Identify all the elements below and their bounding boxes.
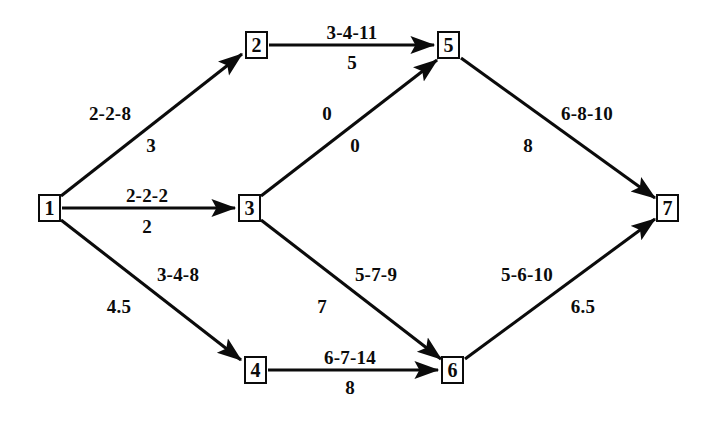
edge-line-1-4 <box>61 220 241 360</box>
edge-3-6-estimate: 5-7-9 <box>355 265 397 284</box>
edge-3-5-estimate: 0 <box>322 104 332 123</box>
edge-2-5-estimate: 3-4-11 <box>327 23 378 42</box>
edge-5-7-duration: 8 <box>523 136 533 155</box>
node-4[interactable]: 4 <box>244 356 267 384</box>
edge-6-7-duration: 6.5 <box>571 297 595 316</box>
edge-1-3-duration: 2 <box>142 217 152 236</box>
edge-1-4-duration: 4.5 <box>107 297 131 316</box>
node-5[interactable]: 5 <box>437 31 460 59</box>
edge-1-3-estimate: 2-2-2 <box>126 186 168 205</box>
node-5-label: 5 <box>444 35 454 55</box>
node-7[interactable]: 7 <box>656 194 679 222</box>
node-6[interactable]: 6 <box>441 356 464 384</box>
edge-2-5-duration: 5 <box>347 53 357 72</box>
edge-4-6-duration: 8 <box>345 378 355 397</box>
edge-1-2-duration: 3 <box>146 136 156 155</box>
network-diagram: 1 2 3 4 5 6 7 2-2-8 3 2-2-2 2 3-4-8 4.5 … <box>0 0 708 425</box>
edge-line-3-6 <box>261 220 441 359</box>
node-4-label: 4 <box>251 360 261 380</box>
node-1[interactable]: 1 <box>38 194 61 222</box>
edge-line-3-5 <box>261 60 437 196</box>
node-3[interactable]: 3 <box>238 194 261 222</box>
edge-6-7-estimate: 5-6-10 <box>501 265 553 284</box>
edge-3-5-duration: 0 <box>350 136 360 155</box>
edge-5-7-estimate: 6-8-10 <box>561 104 613 123</box>
edge-line-5-7 <box>461 58 655 198</box>
node-7-label: 7 <box>663 198 673 218</box>
edge-line-1-2 <box>61 54 242 196</box>
node-6-label: 6 <box>448 360 458 380</box>
node-3-label: 3 <box>245 198 255 218</box>
edge-3-6-duration: 7 <box>317 297 327 316</box>
edge-line-6-7 <box>465 219 655 359</box>
node-2-label: 2 <box>252 35 262 55</box>
edge-1-4-estimate: 3-4-8 <box>157 265 199 284</box>
edge-4-6-estimate: 6-7-14 <box>324 348 376 367</box>
node-2[interactable]: 2 <box>245 31 268 59</box>
node-1-label: 1 <box>45 198 55 218</box>
edge-1-2-estimate: 2-2-8 <box>89 104 131 123</box>
